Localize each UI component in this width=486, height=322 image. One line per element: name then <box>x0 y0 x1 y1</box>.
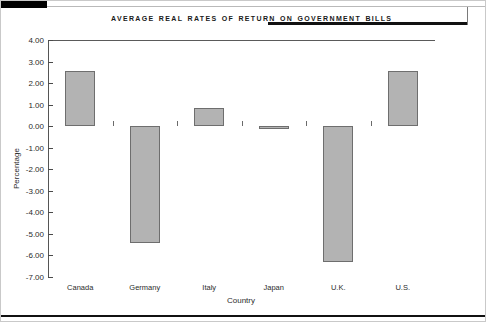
x-axis-tick-label: Japan <box>264 283 284 292</box>
y-axis-tick-label: -1.00 <box>26 143 44 152</box>
y-axis-tick <box>48 212 53 213</box>
y-axis-tick-label: 1.00 <box>28 100 44 109</box>
y-axis-tick-label: 3.00 <box>28 57 44 66</box>
y-axis-tick-label: -3.00 <box>26 186 44 195</box>
x-axis-tick-label: U.K. <box>331 283 346 292</box>
x-axis-title: Country <box>227 296 255 305</box>
y-axis-tick <box>48 105 53 106</box>
top-left-black-block <box>1 1 47 8</box>
chart-figure: Average Real Rates of Return on Governme… <box>0 0 486 322</box>
title-underline-rule <box>268 22 468 25</box>
y-axis-title: Percentage <box>12 148 21 189</box>
y-axis-tick-label: 4.00 <box>28 36 44 45</box>
y-axis-tick <box>48 83 53 84</box>
x-axis-tick-label: U.S. <box>395 283 410 292</box>
y-axis-tick <box>48 169 53 170</box>
bar-u-k <box>323 126 353 262</box>
y-axis-tick <box>48 277 53 278</box>
title-right-tick <box>467 7 468 25</box>
y-axis-tick-label: -7.00 <box>26 273 44 282</box>
x-axis-minor-tick <box>371 121 372 126</box>
y-axis-tick-label: 2.00 <box>28 79 44 88</box>
x-axis-tick-label: Italy <box>202 283 216 292</box>
top-divider-rule <box>47 6 486 7</box>
x-axis-minor-tick <box>113 121 114 126</box>
y-axis-tick <box>48 191 53 192</box>
x-axis-minor-tick <box>242 121 243 126</box>
x-axis-tick-label: Canada <box>67 283 93 292</box>
bar-canada <box>65 71 95 126</box>
plot-area: 4.003.002.001.000.00-1.00-2.00-3.00-4.00… <box>48 40 435 277</box>
y-axis-tick <box>48 62 53 63</box>
bar-italy <box>194 108 224 126</box>
y-axis-tick-label: -4.00 <box>26 208 44 217</box>
title-container: Average Real Rates of Return on Governme… <box>109 9 481 33</box>
y-axis-tick <box>48 148 53 149</box>
bar-germany <box>130 126 160 242</box>
x-axis-minor-tick <box>306 121 307 126</box>
y-axis-line <box>48 40 49 277</box>
bar-japan <box>259 126 289 129</box>
bar-u-s <box>388 71 418 126</box>
y-axis-tick <box>48 126 53 127</box>
y-axis-tick <box>48 234 53 235</box>
zero-baseline <box>48 40 435 41</box>
y-axis-tick-label: 0.00 <box>28 122 44 131</box>
y-axis-tick <box>48 40 53 41</box>
y-axis-tick-label: -5.00 <box>26 229 44 238</box>
y-axis-tick-label: -2.00 <box>26 165 44 174</box>
y-axis-tick <box>48 255 53 256</box>
y-axis-tick-label: -6.00 <box>26 251 44 260</box>
x-axis-minor-tick <box>177 121 178 126</box>
bottom-divider-rule <box>1 315 486 317</box>
x-axis-tick-label: Germany <box>129 283 160 292</box>
